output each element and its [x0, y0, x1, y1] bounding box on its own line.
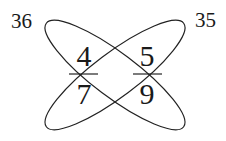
denominator-right: 9 [140, 77, 155, 110]
numerator-left: 4 [77, 39, 92, 72]
ellipse-right-diagonal [33, 6, 197, 141]
diagram-canvas: 36 35 4 7 5 9 [0, 0, 226, 141]
corner-label-top-right: 35 [195, 8, 216, 32]
ellipse-left-diagonal [33, 6, 197, 141]
numerator-right: 5 [140, 39, 155, 72]
denominator-left: 7 [77, 77, 92, 110]
corner-label-top-left: 36 [11, 9, 32, 33]
